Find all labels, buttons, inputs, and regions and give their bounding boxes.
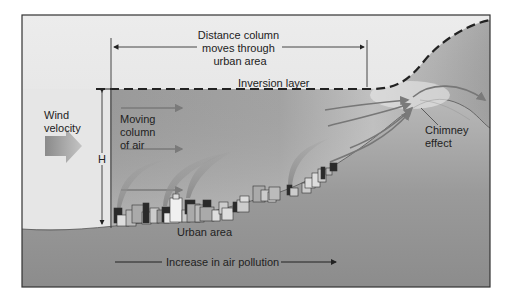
- increase-pollution-label: Increase in air pollution: [166, 256, 279, 268]
- inversion-layer-label: Inversion layer: [238, 77, 310, 89]
- urban-area-label: Urban area: [177, 226, 233, 238]
- air-pollution-diagram: Distance column moves through urban area…: [0, 0, 512, 303]
- height-label: H: [98, 153, 106, 165]
